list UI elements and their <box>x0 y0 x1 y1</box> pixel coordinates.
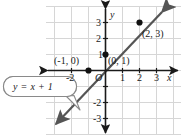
x-tick-label-3: 3 <box>154 73 159 83</box>
x-tick-label-2: 2 <box>137 73 142 83</box>
x-tick-label-1: 1 <box>120 73 125 83</box>
y-tick-label-3: 3 <box>96 18 101 28</box>
point-label-0-1: (0, 1) <box>108 56 130 66</box>
data-point-2-3 <box>136 19 142 25</box>
y-axis-label: y <box>110 10 114 20</box>
y-tick-label-neg2: -2 <box>93 98 101 108</box>
x-tick-label-neg2: -2 <box>66 73 74 83</box>
y-tick-label-neg3: -3 <box>93 114 101 124</box>
x-axis-label: x <box>167 73 171 83</box>
point-label-2-3: (2, 3) <box>142 29 164 39</box>
data-point-neg1-0 <box>85 67 91 73</box>
y-tick-label-2: 2 <box>96 34 101 44</box>
graph-figure: y = x + 1 y x O -2 1 2 3 3 2 1 -2 -3 (-1… <box>0 0 188 139</box>
callout-equation-label: y = x + 1 <box>13 81 53 92</box>
y-tick-label-1: 1 <box>98 50 103 60</box>
point-label-neg1-0: (-1, 0) <box>54 56 79 66</box>
origin-label: O <box>95 73 102 83</box>
